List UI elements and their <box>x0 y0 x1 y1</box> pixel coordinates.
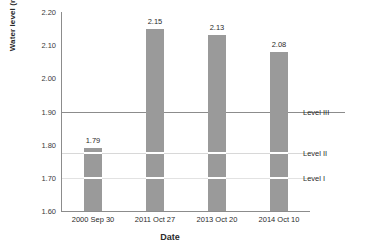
bar-value-label: 2.13 <box>197 23 237 32</box>
x-axis-tick-label: 2011 Oct 27 <box>120 215 190 224</box>
bar <box>84 148 102 211</box>
bar-reference-notch <box>84 177 102 179</box>
bar-reference-notch <box>84 152 102 154</box>
y-axis-tick-label: 2.20 <box>41 8 56 17</box>
x-axis-tick-label: 2013 Oct 20 <box>182 215 252 224</box>
water-level-bar-chart: Water level (m above msl) 2.202.102.001.… <box>0 0 380 252</box>
y-axis-title: Water level (m above msl) <box>6 0 20 66</box>
y-axis-tick-label: 2.10 <box>41 41 56 50</box>
bar-reference-notch <box>208 152 226 154</box>
y-axis-tick-label: 1.80 <box>41 140 56 149</box>
x-axis-tick-label: 2014 Oct 10 <box>244 215 314 224</box>
bar-reference-notch <box>208 177 226 179</box>
reference-line-label: Level II <box>303 148 327 157</box>
x-axis-line <box>61 211 310 212</box>
y-axis-tick-label: 1.90 <box>41 107 56 116</box>
bar-value-label: 2.08 <box>259 40 299 49</box>
bar-reference-notch <box>146 177 164 179</box>
bar <box>208 35 226 211</box>
y-axis-tick-label: 1.70 <box>41 173 56 182</box>
bar <box>146 29 164 211</box>
reference-line-label: Level I <box>303 173 325 182</box>
bar-reference-notch <box>146 152 164 154</box>
bar-value-label: 2.15 <box>135 17 175 26</box>
bar-reference-notch <box>270 152 288 154</box>
bar-value-label: 1.79 <box>73 136 113 145</box>
x-axis-title: Date <box>0 232 340 242</box>
bar-reference-notch <box>270 177 288 179</box>
reference-line-label: Level III <box>303 107 329 116</box>
y-axis-tick-label: 2.00 <box>41 74 56 83</box>
x-axis-tick-label: 2000 Sep 30 <box>58 215 128 224</box>
bar <box>270 52 288 211</box>
y-axis-tick-label: 1.60 <box>41 207 56 216</box>
